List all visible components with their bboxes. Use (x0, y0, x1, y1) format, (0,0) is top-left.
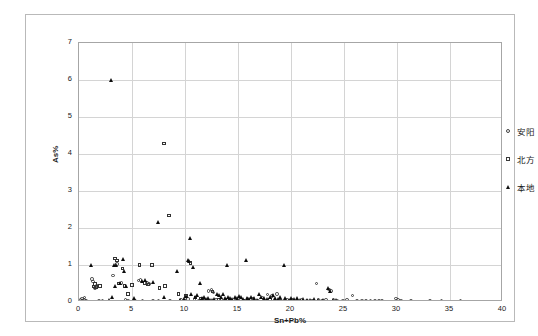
data-point-square (163, 284, 167, 288)
data-point-triangle (156, 220, 160, 224)
gridline-vertical (132, 43, 133, 300)
data-point-triangle (89, 263, 93, 267)
x-tick-label: 10 (172, 305, 196, 313)
data-point-square (158, 286, 162, 290)
data-point-circle (373, 299, 377, 301)
data-point-square (138, 263, 142, 267)
data-point-triangle (162, 295, 166, 299)
legend-label: 北方 (517, 153, 535, 165)
x-tick-label: 40 (490, 305, 514, 313)
gridline-vertical (291, 43, 292, 300)
x-axis-title: Sn+Pb% (78, 316, 502, 325)
data-point-triangle (198, 281, 202, 285)
data-point-triangle (212, 297, 216, 301)
data-point-triangle (175, 269, 179, 273)
data-point-square (130, 283, 134, 287)
y-tick-label: 2 (50, 223, 72, 231)
gridline-vertical (450, 43, 451, 300)
data-point-triangle (321, 298, 325, 301)
data-point-circle (409, 299, 413, 301)
data-point-circle (157, 299, 161, 301)
data-point-square (94, 285, 98, 289)
scatter-chart: As% Sn+Pb% 01234567 0510152025303540 安阳北… (0, 0, 538, 336)
gridline-horizontal (79, 154, 501, 155)
data-point-triangle (118, 281, 122, 285)
data-point-triangle (124, 284, 128, 288)
data-point-circle (345, 298, 349, 301)
data-point-triangle (122, 269, 126, 273)
data-point-circle (141, 299, 145, 301)
data-point-square (126, 292, 130, 296)
gridline-vertical (238, 43, 239, 300)
data-point-triangle (121, 257, 125, 261)
data-point-triangle (187, 259, 191, 263)
data-point-circle (369, 299, 373, 301)
x-tick-label: 15 (225, 305, 249, 313)
data-point-square (98, 284, 102, 288)
y-tick-label: 4 (50, 149, 72, 157)
legend-item-2[interactable]: 本地 (503, 173, 538, 201)
data-point-triangle (278, 295, 282, 299)
data-point-triangle (244, 258, 248, 262)
data-point-square (177, 292, 181, 296)
triangle-marker-icon (503, 182, 513, 192)
legend-label: 安阳 (517, 125, 535, 137)
data-point-triangle (109, 78, 113, 82)
data-point-triangle (188, 236, 192, 240)
plot-area (78, 42, 502, 301)
data-point-circle (351, 294, 355, 298)
circle-marker-icon (503, 126, 513, 136)
gridline-horizontal (79, 80, 501, 81)
y-tick-label: 7 (50, 38, 72, 46)
legend-item-0[interactable]: 安阳 (503, 117, 538, 145)
data-point-circle (126, 299, 130, 301)
data-point-triangle (191, 265, 195, 269)
data-point-square (150, 263, 154, 267)
gridline-horizontal (79, 265, 501, 266)
y-tick-label: 6 (50, 75, 72, 83)
y-tick-label: 0 (50, 297, 72, 305)
data-point-circle (111, 274, 115, 278)
x-tick-label: 35 (437, 305, 461, 313)
data-point-square (162, 142, 166, 146)
legend-label: 本地 (517, 181, 535, 193)
chart-frame: As% Sn+Pb% 01234567 0510152025303540 安阳北… (25, 14, 515, 322)
data-point-circle (360, 299, 364, 301)
data-point-circle (168, 299, 172, 301)
gridline-horizontal (79, 228, 501, 229)
data-point-circle (399, 299, 403, 301)
data-point-circle (355, 299, 359, 301)
data-point-circle (380, 299, 384, 301)
data-point-triangle (143, 278, 147, 282)
data-point-circle (324, 298, 328, 301)
data-point-triangle (184, 294, 188, 298)
data-point-circle (459, 299, 463, 301)
data-point-circle (151, 299, 155, 301)
square-marker-icon (503, 154, 513, 164)
data-point-circle (364, 299, 368, 301)
data-point-circle (341, 299, 345, 301)
data-point-circle (101, 299, 105, 301)
x-tick-label: 20 (278, 305, 302, 313)
x-tick-label: 0 (66, 305, 90, 313)
gridline-vertical (344, 43, 345, 300)
data-point-square (115, 259, 119, 263)
gridline-vertical (397, 43, 398, 300)
x-tick-label: 30 (384, 305, 408, 313)
data-point-triangle (114, 263, 118, 267)
x-tick-label: 5 (119, 305, 143, 313)
chart-legend: 安阳北方本地 (503, 117, 538, 201)
data-point-triangle (132, 296, 136, 300)
data-point-square (167, 214, 171, 218)
data-point-triangle (282, 263, 286, 267)
gridline-horizontal (79, 191, 501, 192)
data-point-circle (428, 299, 432, 301)
data-point-triangle (110, 295, 114, 299)
data-point-triangle (334, 298, 338, 301)
data-point-triangle (113, 284, 117, 288)
data-point-circle (85, 299, 89, 301)
data-point-triangle (151, 280, 155, 284)
y-tick-label: 1 (50, 260, 72, 268)
x-tick-label: 25 (331, 305, 355, 313)
legend-item-1[interactable]: 北方 (503, 145, 538, 173)
